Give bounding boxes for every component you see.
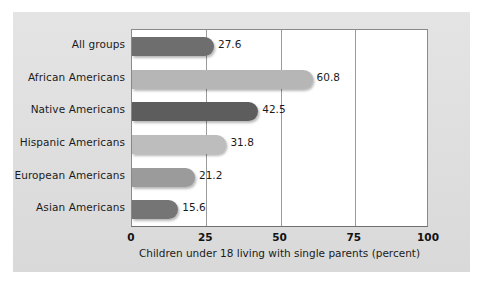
value-label-native-americans: 42.5: [262, 103, 285, 115]
bar-european-americans: [132, 168, 195, 187]
value-label-european-americans: 21.2: [199, 169, 222, 181]
bar-native-americans: [132, 102, 258, 121]
x-tick-label-0: 0: [127, 231, 134, 243]
bar-asian-americans: [132, 200, 178, 219]
category-label-native-americans: Native Americans: [3, 103, 125, 115]
x-tick-label-100: 100: [417, 231, 439, 243]
plot-area: [131, 29, 428, 227]
category-label-asian-americans: Asian Americans: [3, 201, 125, 213]
category-label-all-groups: All groups: [3, 38, 125, 50]
bar-row: [132, 161, 429, 194]
category-label-african-americans: African Americans: [3, 71, 125, 83]
x-axis-title: Children under 18 living with single par…: [131, 247, 428, 259]
category-label-european-americans: European Americans: [3, 169, 125, 181]
value-label-all-groups: 27.6: [218, 38, 241, 50]
bar-row: [132, 128, 429, 161]
bar-row: [132, 30, 429, 63]
bar-row: [132, 193, 429, 226]
x-tick-label-50: 50: [272, 231, 287, 243]
value-label-african-americans: 60.8: [317, 71, 340, 83]
x-tick-label-25: 25: [198, 231, 213, 243]
bar-all-groups: [132, 37, 214, 56]
bar-african-americans: [132, 70, 313, 89]
value-label-asian-americans: 15.6: [182, 201, 205, 213]
bar-row: [132, 63, 429, 96]
category-label-hispanic-americans: Hispanic Americans: [3, 136, 125, 148]
x-tick-label-75: 75: [346, 231, 361, 243]
chart-figure: All groupsAfrican AmericansNative Americ…: [0, 0, 481, 284]
value-label-hispanic-americans: 31.8: [230, 136, 253, 148]
bar-hispanic-americans: [132, 135, 226, 154]
